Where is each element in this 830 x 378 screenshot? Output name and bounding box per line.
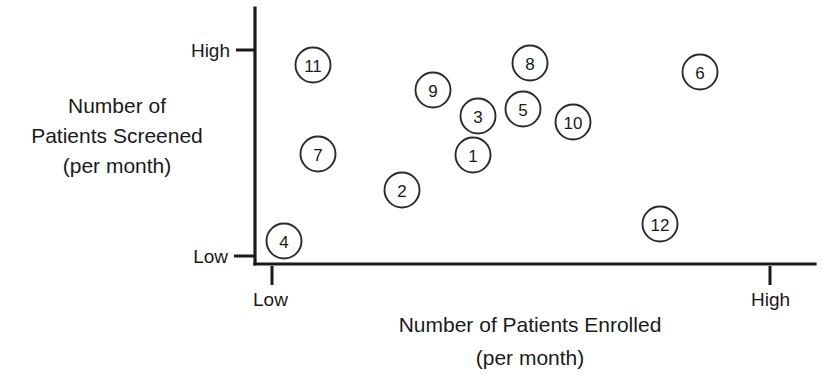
scatter-chart-figure: High Low Low High Number of Patients Scr… (0, 0, 830, 378)
y-axis-tick-label-high: High (191, 40, 230, 61)
data-point-label: 1 (468, 147, 477, 166)
x-axis-tick-label-low: Low (253, 289, 288, 310)
y-axis-title-line-2: Patients Screened (31, 124, 203, 147)
data-point-label: 4 (279, 233, 288, 252)
data-point-label: 7 (313, 146, 322, 165)
plot-canvas: High Low Low High Number of Patients Scr… (0, 0, 830, 378)
data-point-7: 7 (301, 137, 336, 172)
x-axis-tick-label-high: High (751, 289, 790, 310)
data-point-2: 2 (385, 173, 420, 208)
data-point-label: 8 (525, 55, 534, 74)
data-point-1: 1 (456, 138, 491, 173)
data-point-4: 4 (267, 224, 302, 259)
data-point-label: 6 (695, 64, 704, 83)
data-point-label: 12 (651, 216, 670, 235)
data-point-label: 2 (397, 182, 406, 201)
y-axis-title-line-3: (per month) (63, 154, 172, 177)
data-point-8: 8 (513, 46, 548, 81)
data-points-layer: 118695310172124 (267, 46, 718, 259)
x-axis-title-line-1: Number of Patients Enrolled (399, 313, 662, 336)
data-point-9: 9 (416, 73, 451, 108)
data-point-3: 3 (461, 99, 496, 134)
y-axis-tick-label-low: Low (193, 246, 228, 267)
data-point-label: 11 (304, 57, 322, 76)
y-axis-title-line-1: Number of (68, 94, 166, 117)
x-axis-title-line-2: (per month) (476, 346, 585, 369)
data-point-label: 3 (473, 108, 482, 127)
data-point-label: 10 (564, 114, 583, 133)
data-point-12: 12 (643, 207, 678, 242)
data-point-label: 9 (428, 82, 437, 101)
data-point-11: 11 (296, 48, 331, 83)
data-point-6: 6 (683, 55, 718, 90)
data-point-10: 10 (556, 105, 591, 140)
data-point-label: 5 (518, 101, 527, 120)
data-point-5: 5 (506, 92, 541, 127)
